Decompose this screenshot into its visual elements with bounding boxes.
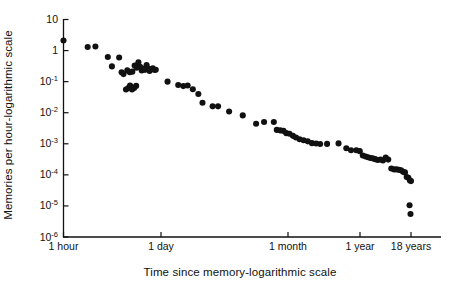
data-point-group (60, 38, 414, 218)
data-point (335, 140, 341, 146)
data-point (199, 100, 205, 106)
data-point (92, 43, 98, 49)
data-point (60, 38, 66, 44)
data-point (408, 178, 414, 184)
data-point (185, 82, 191, 88)
figure: Memories per hour-logarithmic scale Time… (0, 0, 450, 295)
data-point (195, 91, 201, 97)
data-point (133, 83, 139, 89)
data-point (240, 112, 246, 118)
data-point (190, 86, 196, 92)
scatter-plot (0, 0, 450, 295)
data-point (85, 44, 91, 50)
data-point (385, 157, 391, 163)
data-point (165, 79, 171, 85)
data-point (253, 121, 259, 127)
data-point (116, 54, 122, 60)
data-point (407, 202, 413, 208)
data-point (407, 211, 413, 217)
data-point (175, 82, 181, 88)
data-point (105, 54, 111, 60)
data-point (261, 119, 267, 125)
data-point (226, 108, 232, 114)
data-point (210, 103, 216, 109)
data-point (317, 141, 323, 147)
axis-lines (63, 19, 441, 238)
data-point (271, 119, 277, 125)
x-axis-ticks (64, 232, 412, 237)
y-axis-ticks (64, 20, 69, 238)
data-point (153, 67, 159, 73)
data-point (109, 63, 115, 69)
data-point (324, 141, 330, 147)
data-point (215, 103, 221, 109)
data-point (348, 147, 354, 153)
